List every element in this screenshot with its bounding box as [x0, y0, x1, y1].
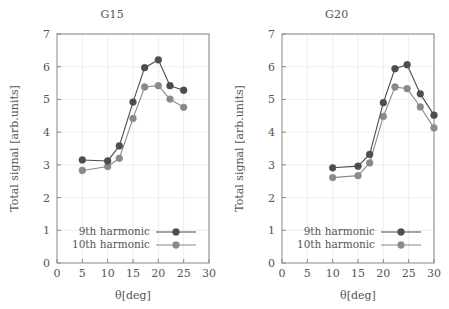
x-axis-tick-label: 30 — [427, 267, 441, 280]
data-point-marker — [403, 61, 410, 68]
legend-marker-sample — [397, 229, 404, 236]
x-axis-title: θ[deg] — [340, 289, 376, 302]
legend-marker-sample — [173, 242, 180, 249]
y-axis-tick-label: 2 — [268, 192, 275, 205]
y-axis-tick-label: 6 — [43, 61, 50, 74]
data-point-marker — [180, 87, 187, 94]
data-point-marker — [79, 167, 86, 174]
data-point-marker — [116, 155, 123, 162]
x-axis-tick-label: 25 — [401, 267, 415, 280]
x-axis-tick-label: 5 — [79, 267, 86, 280]
x-axis-tick-label: 15 — [351, 267, 365, 280]
legend-label-ninth: 9th harmonic — [303, 225, 374, 237]
data-point-marker — [155, 82, 162, 89]
data-point-marker — [104, 158, 111, 165]
x-axis-title: θ[deg] — [115, 289, 151, 302]
y-axis-title: Total signal [arb.units] — [233, 85, 246, 212]
y-axis-tick-label: 0 — [43, 257, 50, 270]
y-axis-tick-label: 7 — [43, 28, 50, 41]
y-axis-tick-label: 2 — [43, 192, 50, 205]
data-point-marker — [354, 172, 361, 179]
y-axis-tick-label: 7 — [268, 28, 275, 41]
data-point-marker — [391, 65, 398, 72]
data-point-marker — [416, 104, 423, 111]
legend-label-ninth: 9th harmonic — [79, 225, 150, 237]
y-axis-tick-label: 6 — [268, 61, 275, 74]
data-point-marker — [141, 84, 148, 91]
data-point-marker — [329, 164, 336, 171]
data-point-marker — [167, 96, 174, 103]
y-axis-tick-label: 4 — [268, 126, 275, 139]
x-axis-tick-label: 20 — [376, 267, 390, 280]
x-axis-tick-label: 0 — [54, 267, 61, 280]
data-point-marker — [79, 157, 86, 164]
x-axis-tick-label: 5 — [303, 267, 310, 280]
data-point-marker — [403, 85, 410, 92]
data-point-marker — [366, 159, 373, 166]
y-axis-tick-label: 4 — [43, 126, 50, 139]
data-point-marker — [379, 113, 386, 120]
data-point-marker — [354, 163, 361, 170]
chart-panel-g20: G20 05101520253001234567θ[deg]Total sign… — [225, 0, 449, 309]
data-point-marker — [430, 124, 437, 131]
y-axis-title: Total signal [arb.units] — [8, 85, 21, 212]
data-point-marker — [116, 142, 123, 149]
y-axis-tick-label: 1 — [43, 224, 50, 237]
x-axis-tick-label: 10 — [101, 267, 115, 280]
x-axis-tick-label: 30 — [202, 267, 216, 280]
y-axis-tick-label: 3 — [43, 159, 50, 172]
data-point-marker — [391, 84, 398, 91]
plot-area-g15: 05101520253001234567θ[deg]Total signal [… — [0, 0, 225, 309]
data-point-marker — [141, 64, 148, 71]
x-axis-tick-label: 25 — [177, 267, 191, 280]
chart-panel-g15: G15 05101520253001234567θ[deg]Total sign… — [0, 0, 225, 309]
y-axis-tick-label: 0 — [268, 257, 275, 270]
figure-two-panel-chart: G15 05101520253001234567θ[deg]Total sign… — [0, 0, 449, 309]
x-axis-tick-label: 10 — [325, 267, 339, 280]
y-axis-tick-label: 3 — [268, 159, 275, 172]
data-point-marker — [329, 174, 336, 181]
legend-label-tenth: 10th harmonic — [296, 238, 374, 250]
y-axis-tick-label: 5 — [43, 93, 50, 106]
legend-label-tenth: 10th harmonic — [72, 238, 150, 250]
x-axis-tick-label: 15 — [126, 267, 140, 280]
data-point-marker — [366, 151, 373, 158]
data-point-marker — [130, 99, 137, 106]
y-axis-tick-label: 5 — [268, 93, 275, 106]
legend-marker-sample — [173, 229, 180, 236]
data-point-marker — [379, 99, 386, 106]
data-point-marker — [180, 104, 187, 111]
data-point-marker — [155, 56, 162, 63]
data-point-marker — [130, 115, 137, 122]
legend-marker-sample — [397, 242, 404, 249]
x-axis-tick-label: 20 — [151, 267, 165, 280]
data-point-marker — [167, 82, 174, 89]
y-axis-tick-label: 1 — [268, 224, 275, 237]
x-axis-tick-label: 0 — [278, 267, 285, 280]
data-point-marker — [430, 112, 437, 119]
plot-area-g20: 05101520253001234567θ[deg]Total signal [… — [225, 0, 449, 309]
data-point-marker — [416, 90, 423, 97]
